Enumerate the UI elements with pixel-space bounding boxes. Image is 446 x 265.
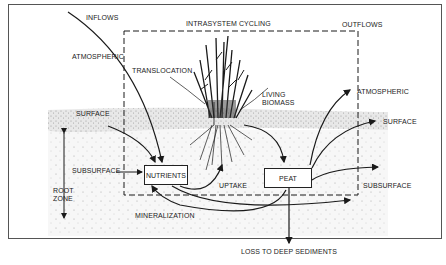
translocation-label: TRANSLOCATION bbox=[132, 67, 192, 75]
nutrients-box: NUTRIENTS bbox=[144, 165, 188, 185]
outflow-subsurface-label: SUBSURFACE bbox=[363, 182, 411, 190]
intrasystem-header: INTRASYSTEM CYCLING bbox=[186, 20, 271, 28]
uptake-label: UPTAKE bbox=[219, 182, 247, 190]
peat-box: PEAT bbox=[264, 168, 312, 188]
living-biomass-label-1: LIVING bbox=[262, 91, 286, 99]
root-zone-label-1: ROOT bbox=[53, 187, 74, 195]
soil-region bbox=[48, 130, 388, 236]
inflow-surface-label: SURFACE bbox=[76, 110, 110, 118]
inflow-subsurface-label: SUBSURFACE bbox=[72, 167, 120, 175]
diagram-graphics bbox=[0, 0, 446, 265]
mineralization-label: MINERALIZATION bbox=[135, 212, 195, 220]
root-zone-label-2: ZONE bbox=[53, 195, 73, 203]
loss-label: LOSS TO DEEP SEDIMENTS bbox=[241, 248, 337, 256]
outflow-atmospheric-label: ATMOSPHERIC bbox=[357, 88, 409, 96]
inflows-header: INFLOWS bbox=[86, 14, 119, 22]
inflow-atmospheric-label: ATMOSPHERIC bbox=[72, 53, 124, 61]
living-biomass-label-2: BIOMASS bbox=[262, 99, 295, 107]
outflows-header: OUTFLOWS bbox=[342, 21, 382, 29]
outflow-surface-label: SURFACE bbox=[383, 118, 417, 126]
